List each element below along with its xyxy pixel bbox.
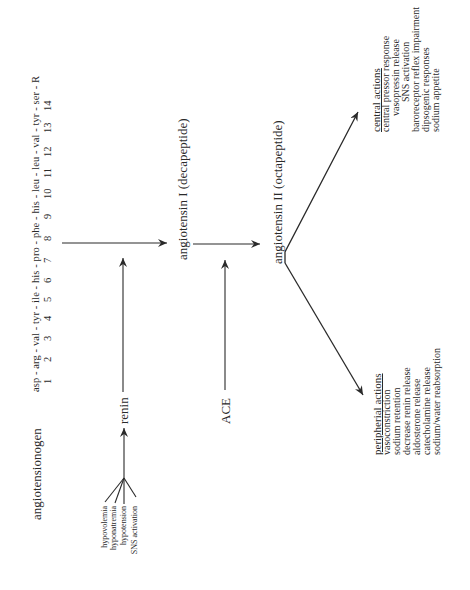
- split-peripheral: [285, 263, 363, 395]
- position-9: 9: [43, 214, 54, 219]
- fan-line-hypovolemia: [105, 478, 124, 502]
- position-2: 2: [43, 357, 54, 362]
- fan-line-sns: [124, 478, 136, 497]
- position-5: 5: [43, 297, 54, 302]
- amino-acid-sequence: asp - arg - val - tyr - ile - his - pro …: [31, 76, 42, 392]
- stimulus-hypotension: hypotension: [120, 506, 128, 545]
- position-12: 12: [43, 147, 54, 158]
- position-3: 3: [43, 336, 54, 341]
- fan-line-hyponatremia: [115, 478, 124, 503]
- rotated-diagram: angiotensionogen asp - arg - val - tyr -…: [0, 0, 470, 590]
- renin-label: renin: [117, 397, 130, 424]
- position-10: 10: [43, 189, 54, 200]
- ace-label: ACE: [219, 398, 232, 424]
- central-action-item: sodium appetite: [431, 68, 441, 132]
- stimulus-hyponatremia: hyponatremia: [110, 506, 118, 550]
- peripheral-action-item: sodium/water reabsorption: [432, 348, 442, 455]
- position-6: 6: [43, 278, 54, 283]
- position-1: 1: [43, 379, 54, 384]
- split-central: [285, 112, 358, 263]
- angiotensin-1-label: angiotensin I (decapeptide): [176, 119, 189, 261]
- stimulus-hypovolemia: hypovolemia: [101, 506, 109, 548]
- position-4: 4: [43, 316, 54, 321]
- position-8: 8: [43, 236, 54, 241]
- position-13: 13: [43, 123, 54, 134]
- stimulus-sns-activation: SNS activation: [131, 506, 139, 554]
- position-11: 11: [43, 168, 54, 178]
- position-7: 7: [43, 258, 54, 263]
- angiotensinogen-label: angiotensionogen: [30, 428, 43, 520]
- position-14: 14: [43, 101, 54, 112]
- angiotensin-2-label: angiotensin II (octapeptide): [271, 120, 284, 264]
